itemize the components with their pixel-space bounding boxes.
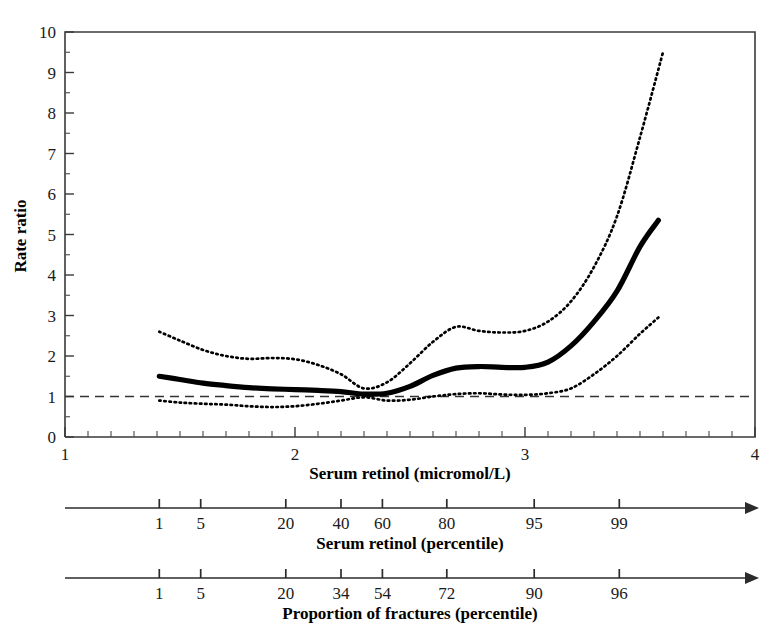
percentile-tick-label: 99 — [611, 514, 628, 533]
y-tick-label: 0 — [48, 428, 57, 447]
y-tick-label: 6 — [48, 185, 57, 204]
y-tick-label: 2 — [48, 347, 57, 366]
percentile-tick-label: 96 — [611, 584, 628, 603]
y-axis-title: Rate ratio — [11, 199, 30, 272]
rate-ratio-chart: 012345678910 1234 Rate ratio Serum retin… — [0, 0, 781, 630]
percentile-tick-label: 90 — [526, 584, 543, 603]
x-axis-title: Serum retinol (micromol/L) — [309, 464, 510, 483]
percentile-tick-label: 1 — [155, 514, 164, 533]
percentile-tick-label: 95 — [526, 514, 543, 533]
y-tick-label: 3 — [48, 307, 57, 326]
y-tick-label: 10 — [39, 23, 56, 42]
percentile-tick-label: 60 — [374, 514, 391, 533]
x-tick-label: 2 — [291, 445, 300, 464]
percentile-tick-label: 80 — [438, 514, 455, 533]
percentile-tick-label: 72 — [438, 584, 455, 603]
y-tick-label: 5 — [48, 226, 57, 245]
y-tick-label: 4 — [48, 266, 57, 285]
percentile-tick-label: 20 — [277, 514, 294, 533]
percentile-axis-title-1: Serum retinol (percentile) — [316, 534, 503, 553]
y-tick-label: 7 — [48, 145, 57, 164]
percentile-tick-label: 34 — [333, 584, 351, 603]
y-tick-label: 8 — [48, 104, 57, 123]
x-tick-label: 1 — [61, 445, 70, 464]
percentile-tick-label: 5 — [196, 584, 205, 603]
y-tick-label: 9 — [48, 64, 57, 83]
percentile-tick-label: 54 — [374, 584, 392, 603]
percentile-tick-label: 5 — [196, 514, 205, 533]
y-tick-label: 1 — [48, 388, 57, 407]
x-tick-label: 4 — [751, 445, 760, 464]
percentile-tick-label: 1 — [155, 584, 164, 603]
percentile-tick-label: 40 — [333, 514, 350, 533]
percentile-axis-title-2: Proportion of fractures (percentile) — [282, 604, 537, 623]
percentile-tick-label: 20 — [277, 584, 294, 603]
x-tick-label: 3 — [521, 445, 530, 464]
